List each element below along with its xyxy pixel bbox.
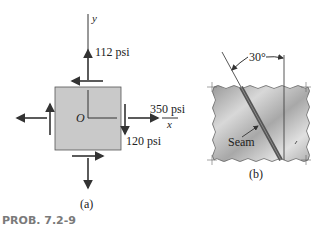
origin-label: O — [76, 111, 85, 125]
stress-x-label: 350 psi — [150, 102, 186, 116]
problem-label: PROB. 7.2-9 — [2, 214, 76, 227]
stress-y-label: 112 psi — [95, 45, 130, 59]
figure-canvas: y 112 psi O 350 psi x 120 psi (a) PROB. … — [0, 0, 327, 227]
seam-extension-line — [222, 52, 241, 87]
shear-stress-label: 120 psi — [126, 134, 162, 148]
x-axis-label: x — [166, 118, 172, 130]
angle-arrow-left-icon — [232, 57, 248, 70]
y-axis-label: y — [91, 12, 97, 24]
figure-a-stress-element — [17, 14, 178, 188]
figure-b-welded-plate — [207, 52, 311, 165]
caption-b: (b) — [249, 167, 263, 181]
seam-label: Seam — [228, 135, 255, 149]
caption-a: (a) — [80, 197, 93, 211]
angle-arrow-right-icon — [266, 57, 283, 58]
angle-label: 30° — [249, 50, 266, 64]
